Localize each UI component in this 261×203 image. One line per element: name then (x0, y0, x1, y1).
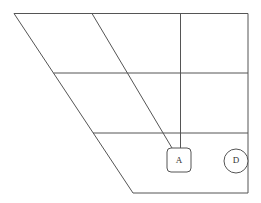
vowel-chart (0, 0, 261, 203)
left-diagonal-edge (14, 14, 133, 194)
node-a-label: A (167, 156, 191, 165)
inner-diagonal-line (92, 14, 172, 149)
node-d-label: D (224, 156, 248, 165)
